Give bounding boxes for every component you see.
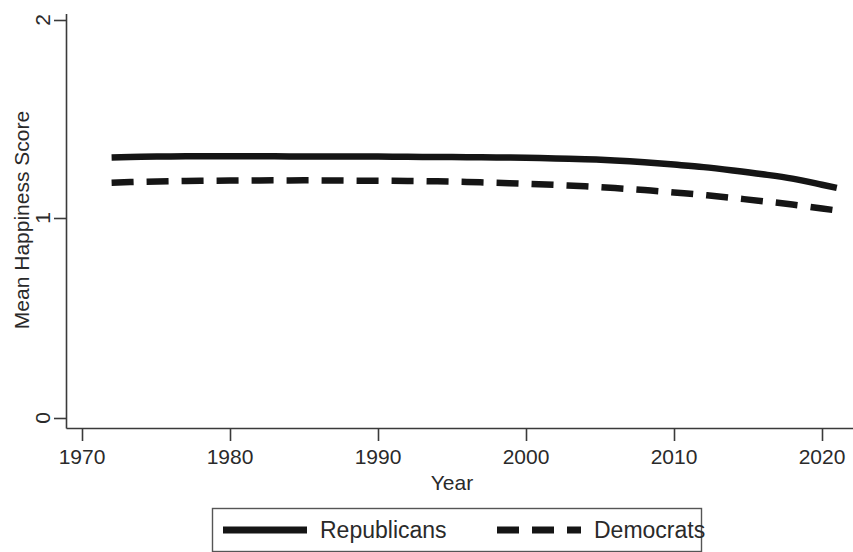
x-tick-label-2010: 2010 [651,445,698,468]
line-chart-svg: 2 1 0 Mean Happiness Score 1970 1980 199… [0,0,853,552]
x-tick-label-2000: 2000 [503,445,550,468]
y-tick-label-1: 1 [31,212,54,224]
x-tick-label-2020: 2020 [799,445,846,468]
chart-legend: Republicans Democrats [213,509,706,552]
chart-figure: 2 1 0 Mean Happiness Score 1970 1980 199… [0,0,853,552]
x-tick-label-1970: 1970 [59,445,106,468]
x-tick-label-1990: 1990 [355,445,402,468]
y-axis-title: Mean Happiness Score [10,111,33,329]
legend-label-republicans: Republicans [320,517,447,543]
y-tick-label-2: 2 [31,14,54,26]
chart-background [0,0,853,552]
x-axis-title: Year [431,471,473,494]
legend-label-democrats: Democrats [594,517,705,543]
y-tick-label-0: 0 [31,412,54,424]
x-tick-label-1980: 1980 [207,445,254,468]
